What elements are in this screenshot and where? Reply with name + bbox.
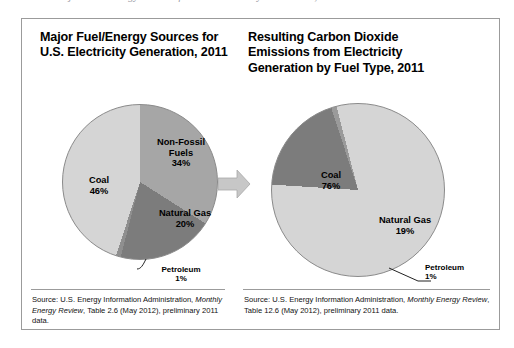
left-chart-title: Major Fuel/Energy Sources for U.S. Elect… <box>40 30 230 61</box>
right-source-note: Source: U.S. Energy Information Administ… <box>244 295 490 316</box>
right-pie-chart: Coal 76% Natural Gas 19% Petroleum 1% <box>271 103 445 277</box>
right-coal-name: Coal <box>309 170 353 181</box>
right-petroleum-name: Petroleum <box>425 263 485 272</box>
left-gas-value: 20% <box>154 219 216 230</box>
left-coal-value: 46% <box>76 186 122 197</box>
right-source-prefix: Source: U.S. Energy Information Administ… <box>244 295 407 304</box>
right-petroleum-value: 1% <box>425 272 485 281</box>
left-slice-label-nonfossil: Non-Fossil Fuels 34% <box>148 137 214 169</box>
right-slice-label-petroleum: Petroleum 1% <box>425 263 485 282</box>
right-arrow-icon <box>218 169 251 199</box>
right-source-divider <box>243 289 490 290</box>
left-petroleum-name: Petroleum <box>148 265 214 274</box>
left-pie-chart: Coal 46% Non-Fossil Fuels 34% Natural Ga… <box>62 104 218 260</box>
figure-frame: Major Fuel/Energy Sources for U.S. Elect… <box>21 18 500 330</box>
left-gas-name: Natural Gas <box>154 208 216 219</box>
left-source-divider <box>31 289 225 290</box>
clipped-caption-strip: a Major Fuel/Energy Sources for U.S. Ele… <box>0 0 514 13</box>
left-chart-panel: Major Fuel/Energy Sources for U.S. Elect… <box>22 19 234 329</box>
clipped-caption-text: a Major Fuel/Energy Sources for U.S. Ele… <box>46 0 341 2</box>
right-chart-panel: Resulting Carbon Dioxide Emissions from … <box>234 19 499 329</box>
right-coal-value: 76% <box>309 181 353 192</box>
right-slice-label-coal: Coal 76% <box>309 170 353 191</box>
right-pie-disc <box>271 103 445 277</box>
right-gas-name: Natural Gas <box>372 215 438 226</box>
left-source-note: Source: U.S. Energy Information Administ… <box>32 295 224 327</box>
right-gas-value: 19% <box>372 226 438 237</box>
right-source-publication: Monthly Energy Review <box>407 295 487 304</box>
right-slice-label-natural-gas: Natural Gas 19% <box>372 215 438 236</box>
figure-panels: Major Fuel/Energy Sources for U.S. Elect… <box>22 19 499 329</box>
left-coal-name: Coal <box>76 175 122 186</box>
left-source-prefix: Source: U.S. Energy Information Administ… <box>32 295 195 304</box>
left-slice-label-petroleum: Petroleum 1% <box>148 265 214 284</box>
left-nonfossil-value: 34% <box>148 158 214 169</box>
left-nonfossil-name-line1: Non-Fossil <box>148 137 214 148</box>
left-slice-label-coal: Coal 46% <box>76 175 122 196</box>
left-nonfossil-name-line2: Fuels <box>148 148 214 159</box>
right-chart-title: Resulting Carbon Dioxide Emissions from … <box>248 30 463 76</box>
left-slice-label-natural-gas: Natural Gas 20% <box>154 208 216 229</box>
left-petroleum-value: 1% <box>148 274 214 283</box>
